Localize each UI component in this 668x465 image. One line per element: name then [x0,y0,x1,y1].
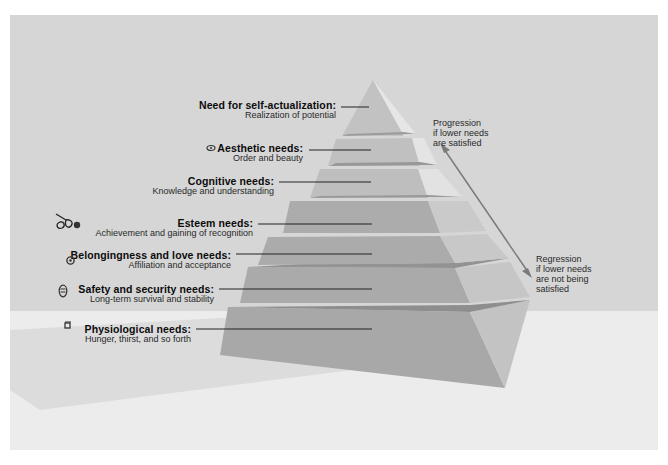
level-subtitle: Knowledge and understanding [152,187,274,196]
progression-line2: if lower needs [433,128,489,138]
level-subtitle: Achievement and gaining of recognition [95,229,253,238]
pyramid-level-aesthetic [328,138,437,166]
regression-line3: are not being [536,274,592,284]
trophy-icon [52,210,82,232]
regression-line4: satisfied [536,284,592,294]
level-belongingness-label: Belongingness and love needs: Affiliatio… [71,250,231,270]
level-safety-label: Safety and security needs: Long-term sur… [78,284,214,304]
pyramid-level-belongingness [258,234,508,265]
level-subtitle: Order and beauty [217,154,303,163]
maslow-diagram: Need for self-actualization: Realization… [0,0,668,465]
level-subtitle: Hunger, thirst, and so forth [85,335,191,344]
level-subtitle: Realization of potential [199,111,336,120]
level-cognitive-label: Cognitive needs: Knowledge and understan… [152,176,274,196]
pyramid-level-esteem [283,201,486,233]
pyramid-level-cognitive [310,169,462,198]
cup-icon [64,321,72,329]
progression-line3: are satisfied [433,138,489,148]
lock-icon [58,284,68,298]
progression-note: Progression if lower needs are satisfied [433,118,489,148]
progression-line1: Progression [433,118,489,128]
regression-line2: if lower needs [536,264,592,274]
regression-line1: Regression [536,254,592,264]
flower-icon [206,144,216,152]
level-aesthetic-label: Aesthetic needs: Order and beauty [217,143,303,163]
level-esteem-label: Esteem needs: Achievement and gaining of… [95,218,253,238]
level-physiological-label: Physiological needs: Hunger, thirst, and… [85,324,191,344]
people-icon [66,256,75,265]
regression-note: Regression if lower needs are not being … [536,254,592,294]
level-subtitle: Long-term survival and stability [78,295,214,304]
level-subtitle: Affiliation and acceptance [71,261,231,270]
level-self-actualization-label: Need for self-actualization: Realization… [199,100,336,120]
